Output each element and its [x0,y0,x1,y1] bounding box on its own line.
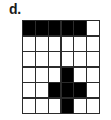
grid-cell-r6-c4 [62,99,74,113]
grid-cell-r5-c1 [23,83,35,97]
grid-cell-r4-c3 [49,68,61,82]
grid-cell-r1-c3 [49,21,61,35]
grid-cell-r3-c1 [23,52,35,66]
grid-cell-r3-c3 [49,52,61,66]
grid-container [22,20,100,114]
grid-cell-r3-c4 [62,52,74,66]
grid-cell-r3-c5 [74,52,86,66]
grid-cell-r6-c6 [87,99,99,113]
grid-cell-r5-c3 [49,83,61,97]
grid-cell-r5-c5 [74,83,86,97]
grid-cell-r4-c4 [62,68,74,82]
grid-cell-r6-c2 [36,99,48,113]
grid-cell-r5-c2 [36,83,48,97]
grid-cell-r4-c1 [23,68,35,82]
grid-cell-r6-c5 [74,99,86,113]
grid-cell-r2-c4 [62,37,74,51]
pattern-grid [22,20,100,114]
grid-cell-r2-c3 [49,37,61,51]
grid-cell-r1-c4 [62,21,74,35]
grid-cell-r4-c2 [36,68,48,82]
grid-cell-r2-c1 [23,37,35,51]
grid-cell-r5-c6 [87,83,99,97]
figure-panel: d. [0,0,111,120]
grid-cell-r2-c6 [87,37,99,51]
grid-cell-r4-c6 [87,68,99,82]
grid-cell-r6-c3 [49,99,61,113]
grid-cell-r3-c6 [87,52,99,66]
grid-cell-r6-c1 [23,99,35,113]
grid-cell-r5-c4 [62,83,74,97]
grid-cell-r1-c5 [74,21,86,35]
grid-cell-r1-c1 [23,21,35,35]
grid-cell-r1-c6 [87,21,99,35]
grid-cell-r3-c2 [36,52,48,66]
grid-cell-r1-c2 [36,21,48,35]
grid-cell-r2-c2 [36,37,48,51]
grid-cell-r2-c5 [74,37,86,51]
grid-cell-r4-c5 [74,68,86,82]
figure-label: d. [9,1,21,17]
